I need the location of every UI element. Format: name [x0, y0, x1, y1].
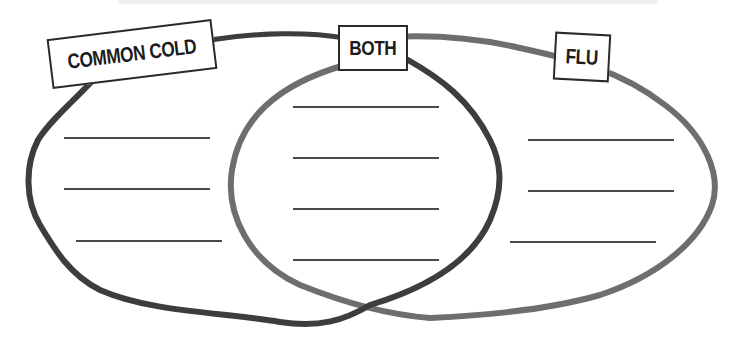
right-write-line-3[interactable] [510, 241, 656, 243]
right-write-line-2[interactable] [528, 190, 674, 192]
left-write-line-2[interactable] [64, 188, 210, 190]
middle-write-line-2[interactable] [293, 157, 439, 159]
middle-write-line-1[interactable] [293, 106, 439, 108]
label-flu: FLU [553, 32, 611, 83]
left-circle-outline-main [28, 60, 499, 324]
right-circle-outline [231, 36, 715, 318]
label-common-cold-text: COMMON COLD [66, 34, 197, 74]
right-write-line-1[interactable] [528, 139, 674, 141]
middle-write-line-3[interactable] [293, 208, 439, 210]
left-write-line-3[interactable] [76, 240, 222, 242]
left-circle-outline [210, 34, 345, 40]
label-flu-text: FLU [565, 44, 598, 70]
middle-write-line-4[interactable] [293, 259, 439, 261]
label-both: BOTH [338, 25, 408, 71]
left-write-line-1[interactable] [64, 137, 210, 139]
label-both-text: BOTH [349, 36, 396, 60]
